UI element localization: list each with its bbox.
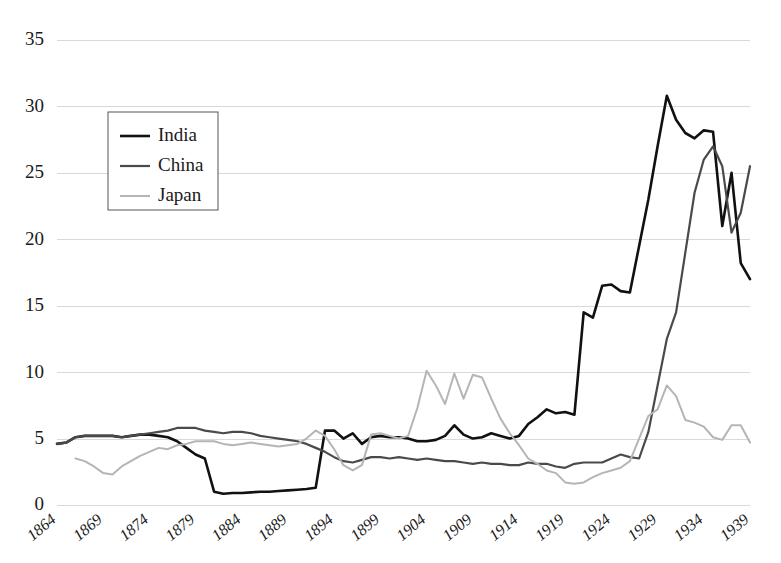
x-tick-label: 1884 [208,510,243,544]
line-chart: 05101520253035 1864186918741879188418891… [0,0,781,563]
y-tick-label: 10 [25,361,44,382]
x-tick-label: 1889 [254,510,289,544]
y-tick-label: 15 [25,294,44,315]
chart-legend: IndiaChinaJapan [108,112,218,210]
x-tick-label: 1894 [301,510,336,544]
x-tick-label: 1904 [393,510,428,544]
x-tick-label: 1909 [439,510,474,544]
x-tick-label: 1939 [716,510,751,544]
legend-label-india: India [158,124,198,145]
y-tick-label: 35 [25,28,44,49]
x-tick-label: 1879 [162,510,197,544]
y-tick-label: 25 [25,161,44,182]
x-tick-label: 1874 [116,510,151,544]
y-tick-label: 5 [35,427,45,448]
y-axis-tick-labels: 05101520253035 [25,28,44,514]
x-tick-label: 1924 [578,510,613,544]
y-tick-label: 30 [25,95,44,116]
x-tick-label: 1864 [23,510,58,544]
x-tick-label: 1929 [624,510,659,544]
chart-canvas: 05101520253035 1864186918741879188418891… [0,0,781,563]
x-axis-tick-labels: 1864186918741879188418891894189919041909… [23,510,751,544]
x-tick-label: 1869 [70,510,105,544]
x-tick-label: 1919 [532,510,567,544]
y-tick-label: 20 [25,228,44,249]
x-tick-label: 1899 [347,510,382,544]
legend-label-china: China [158,154,204,175]
x-tick-label: 1934 [670,510,705,544]
legend-label-japan: Japan [158,184,202,205]
x-tick-label: 1914 [485,510,520,544]
y-tick-label: 0 [35,493,45,514]
